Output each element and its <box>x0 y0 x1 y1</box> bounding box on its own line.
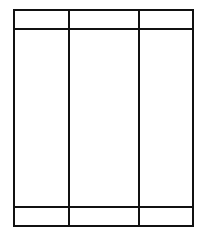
body-cell-1 <box>15 30 70 208</box>
footer-cell-2 <box>70 208 140 225</box>
body-cell-3 <box>140 30 192 208</box>
header-cell-2 <box>70 11 140 30</box>
table-wireframe <box>13 9 194 227</box>
header-cell-3 <box>140 11 192 30</box>
footer-cell-3 <box>140 208 192 225</box>
footer-cell-1 <box>15 208 70 225</box>
body-cell-2 <box>70 30 140 208</box>
header-cell-1 <box>15 11 70 30</box>
